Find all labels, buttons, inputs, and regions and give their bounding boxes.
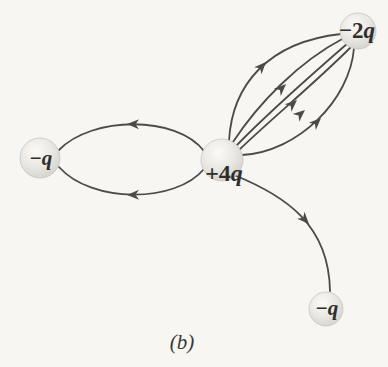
field-arrow-icon <box>293 106 309 121</box>
electric-field-lines-figure: +4q −2q −q −q (b) <box>0 0 388 367</box>
field-line-bundle-outer-right <box>242 48 354 155</box>
field-lines-top-right-group <box>229 34 354 155</box>
charge-label-plus-4q: +4q <box>205 160 243 186</box>
field-line-bottom-right <box>234 175 330 291</box>
field-line-left-top <box>59 124 204 151</box>
field-arrow-icon <box>309 114 325 130</box>
field-line-left-bottom <box>59 167 204 195</box>
charge-label-left-minus-q: −q <box>30 146 52 170</box>
charge-label-bottom-minus-q: −q <box>316 296 338 320</box>
field-line-bundle-inner-2 <box>236 43 348 146</box>
field-line-bundle-inner-3 <box>239 47 351 150</box>
field-line-diagram: +4q −2q −q −q (b) <box>0 0 388 367</box>
charge-label-minus-2q: −2q <box>339 18 375 43</box>
field-lines-left-group <box>59 119 204 200</box>
field-line-bottom-right-group <box>234 175 330 291</box>
field-arrow-icon <box>285 96 301 111</box>
figure-caption: (b) <box>170 330 195 354</box>
field-line-bundle-inner-1 <box>233 38 344 142</box>
